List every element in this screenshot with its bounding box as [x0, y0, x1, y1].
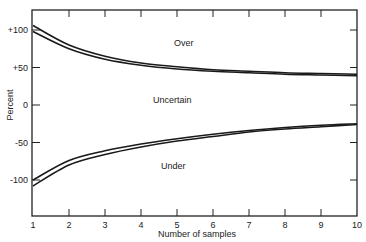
x-tick-label: 1: [30, 220, 35, 230]
x-axis-title: Number of samples: [158, 229, 237, 239]
y-tick-label: 0: [23, 100, 28, 110]
y-tick-label: +100: [8, 25, 28, 35]
x-tick-label: 10: [352, 220, 362, 230]
axis-ticks: [32, 10, 357, 216]
x-tick-label: 7: [246, 220, 251, 230]
chart-canvas: +100 +50 0 -50 -100 12345678910 Percent …: [0, 0, 366, 242]
region-label-over: Over: [174, 38, 194, 48]
region-label-uncertain: Uncertain: [153, 95, 192, 105]
x-tick-label: 8: [282, 220, 287, 230]
curve-line: [33, 26, 357, 75]
y-tick-label: -100: [10, 175, 28, 185]
x-tick-label: 3: [102, 220, 107, 230]
region-label-under: Under: [161, 161, 186, 171]
x-tick-label: 2: [66, 220, 71, 230]
y-tick-label: +50: [13, 63, 28, 73]
curve-line: [33, 125, 357, 187]
y-axis-title: Percent: [5, 89, 15, 121]
x-tick-label: 4: [138, 220, 143, 230]
y-tick-label: -50: [15, 138, 28, 148]
curve-line: [33, 124, 357, 180]
curves: [33, 26, 357, 187]
x-tick-label: 9: [318, 220, 323, 230]
plot-frame: [32, 10, 357, 216]
